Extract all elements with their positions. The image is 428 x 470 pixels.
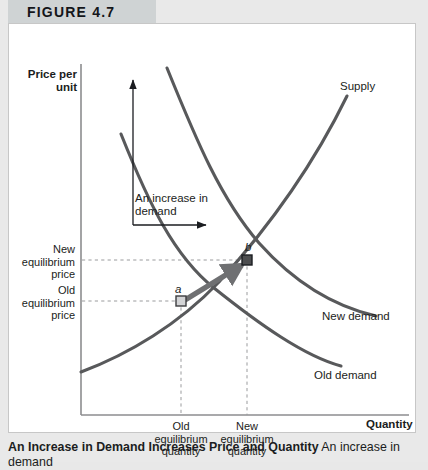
dashed-guide-lines <box>82 260 247 415</box>
figure-header-band: FIGURE 4.7 <box>8 0 156 23</box>
new-equilibrium-price-label: New equilibrium price <box>17 243 75 281</box>
figure-caption-title: An Increase in Demand Increases Price an… <box>8 440 319 454</box>
figure-caption: An Increase in Demand Increases Price an… <box>8 440 422 470</box>
x-axis-title: Quantity <box>366 418 413 431</box>
equilibrium-point-a-label: a <box>175 283 181 296</box>
old-demand-curve <box>121 134 341 366</box>
new-demand-curve-label: New demand <box>322 310 390 323</box>
equilibrium-point-b-label: b <box>245 241 251 254</box>
demand-shift-annotation-label: An increase in demand <box>135 192 208 218</box>
old-demand-curve-label: Old demand <box>314 369 377 382</box>
old-equilibrium-price-label: Old equilibrium price <box>17 284 75 322</box>
equilibrium-point-a-marker <box>176 296 186 306</box>
y-axis-title: Price per unit <box>27 68 77 93</box>
supply-curve-label: Supply <box>340 80 375 93</box>
supply-curve <box>81 96 347 372</box>
chart-panel: Price per unit Quantity New equilibrium … <box>8 23 416 433</box>
axis-lines <box>81 64 409 415</box>
movement-arrow-a-to-b <box>185 265 242 300</box>
equilibrium-point-b-marker <box>242 255 252 265</box>
figure-number-label: FIGURE 4.7 <box>27 4 115 20</box>
